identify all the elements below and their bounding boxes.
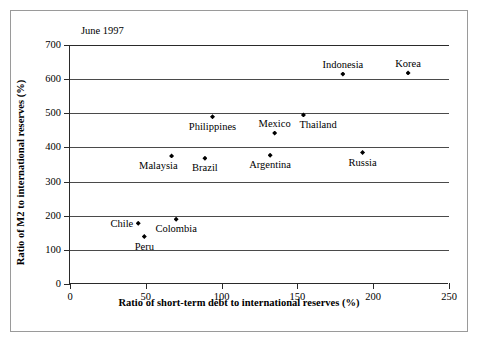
gridline-y-100 — [70, 250, 449, 251]
data-point-argentina — [268, 153, 273, 158]
y-tick-700 — [64, 45, 70, 46]
gridline-y-400 — [70, 147, 449, 148]
point-label-brazil: Brazil — [192, 162, 218, 173]
y-tick-400 — [64, 147, 70, 148]
y-axis-title: Ratio of M2 to international reserves (%… — [9, 11, 33, 333]
y-tick-label-400: 400 — [45, 142, 61, 153]
data-point-chile — [136, 221, 141, 226]
data-point-colombia — [174, 217, 179, 222]
point-label-peru: Peru — [135, 241, 154, 252]
data-point-malaysia — [169, 153, 174, 158]
point-label-philippines: Philippines — [189, 121, 236, 132]
gridline-y-600 — [70, 79, 449, 80]
y-tick-100 — [64, 250, 70, 251]
gridline-y-700 — [70, 45, 449, 46]
point-label-colombia: Colombia — [155, 223, 196, 234]
y-tick-label-500: 500 — [45, 108, 61, 119]
point-label-argentina: Argentina — [249, 159, 291, 170]
y-tick-label-600: 600 — [45, 74, 61, 85]
y-tick-500 — [64, 113, 70, 114]
gridline-y-500 — [70, 113, 449, 114]
gridline-y-200 — [70, 216, 449, 217]
x-tick-200 — [373, 283, 374, 289]
data-point-philippines — [210, 114, 215, 119]
x-tick-50 — [146, 283, 147, 289]
y-tick-label-300: 300 — [45, 176, 61, 187]
y-tick-200 — [64, 216, 70, 217]
x-tick-100 — [222, 283, 223, 289]
point-label-indonesia: Indonesia — [322, 59, 363, 70]
point-label-mexico: Mexico — [259, 118, 291, 129]
plot-area: 0100200300400500600700050100150200250Kor… — [69, 45, 448, 284]
data-point-mexico — [272, 131, 277, 136]
data-point-indonesia — [340, 72, 345, 77]
data-point-korea — [406, 70, 411, 75]
y-tick-label-200: 200 — [45, 210, 61, 221]
y-tick-300 — [64, 182, 70, 183]
y-tick-600 — [64, 79, 70, 80]
point-label-malaysia: Malaysia — [139, 159, 178, 170]
x-tick-150 — [297, 283, 298, 289]
y-axis-title-text: Ratio of M2 to international reserves (%… — [16, 79, 27, 264]
point-label-russia: Russia — [349, 157, 377, 168]
data-point-peru — [142, 234, 147, 239]
x-tick-0 — [70, 283, 71, 289]
data-point-russia — [360, 150, 365, 155]
point-label-thailand: Thailand — [299, 119, 336, 130]
y-tick-label-100: 100 — [45, 245, 61, 256]
y-tick-label-0: 0 — [56, 279, 61, 290]
gridline-y-300 — [70, 182, 449, 183]
y-tick-label-700: 700 — [45, 40, 61, 51]
x-axis-title: Ratio of short-term debt to internationa… — [11, 297, 467, 308]
data-point-brazil — [202, 156, 207, 161]
chart-annotation: June 1997 — [81, 25, 124, 36]
point-label-korea: Korea — [395, 58, 421, 69]
chart-figure: Ratio of M2 to international reserves (%… — [10, 10, 468, 332]
x-tick-250 — [449, 283, 450, 289]
point-label-chile: Chile — [110, 218, 133, 229]
